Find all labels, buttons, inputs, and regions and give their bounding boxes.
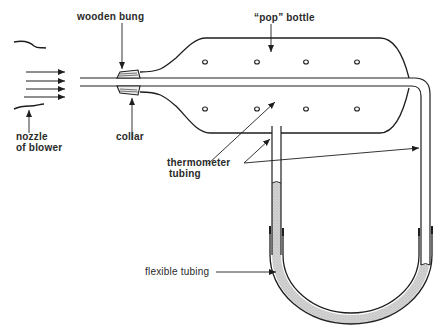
air-flow-arrows — [24, 72, 65, 97]
wooden-bung — [117, 70, 140, 95]
leader-arrows — [29, 23, 419, 272]
label-thermometer-line1: thermometer — [167, 157, 230, 168]
flexible-tubing — [270, 226, 432, 324]
manometer-liquid — [272, 182, 430, 325]
thermometer-arrow-2 — [244, 148, 419, 163]
label-nozzle-line1: nozzle — [16, 131, 48, 142]
label-pop-bottle: “pop” bottle — [254, 12, 315, 23]
label-flexible-tubing: flexible tubing — [145, 266, 209, 277]
thermometer-tubing-vertical — [272, 126, 430, 265]
thermometer-arrow-1 — [244, 139, 270, 163]
label-collar: collar — [116, 131, 144, 142]
label-nozzle-line2: of blower — [16, 142, 62, 153]
label-wooden-bung: wooden bung — [77, 11, 144, 22]
nozzle-of-blower — [14, 41, 46, 109]
label-thermometer-line2: tubing — [169, 168, 201, 179]
thermometer-tubing-horizontal — [80, 78, 430, 265]
